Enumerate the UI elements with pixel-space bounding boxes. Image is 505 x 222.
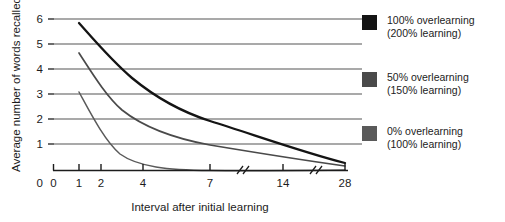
y-tick-label-4: 4 (37, 63, 44, 75)
y-tick-label-3: 3 (37, 88, 43, 100)
y-tick-label-1: 1 (37, 138, 43, 150)
y-tick-label-2: 2 (37, 113, 43, 125)
x-axis-ticks (54, 164, 346, 171)
legend-label-0-percent: 0% overlearning (100% learning) (387, 125, 463, 150)
legend-label-100-percent-line1: 100% overlearning (387, 14, 475, 26)
y-axis-title: Average number of words recalled (10, 0, 22, 172)
legend-label-50-percent-line2: (150% learning) (387, 84, 469, 97)
x-tick-label-28: 28 (339, 177, 352, 189)
gridlines (54, 19, 362, 144)
legend-item-50-percent: 50% overlearning (150% learning) (362, 71, 469, 96)
legend-item-0-percent: 0% overlearning (100% learning) (362, 125, 463, 150)
chart-legend: 100% overlearning (200% learning) 50% ov… (362, 0, 505, 180)
legend-label-100-percent: 100% overlearning (200% learning) (387, 14, 475, 39)
data-curves (79, 23, 345, 171)
x-tick-label-0: 0 (50, 177, 56, 189)
legend-label-0-percent-line2: (100% learning) (387, 138, 463, 151)
y-tick-label-0: 0 (37, 177, 43, 189)
x-axis-title: Interval after initial learning (131, 201, 268, 213)
x-tick-label-7: 7 (207, 177, 213, 189)
legend-item-100-percent: 100% overlearning (200% learning) (362, 14, 475, 39)
curve-50-percent-overlearning (79, 53, 345, 166)
legend-label-50-percent: 50% overlearning (150% learning) (387, 71, 469, 96)
legend-label-50-percent-line1: 50% overlearning (387, 71, 469, 83)
y-tick-label-6: 6 (37, 13, 43, 25)
x-tick-label-4: 4 (140, 177, 147, 189)
legend-label-0-percent-line1: 0% overlearning (387, 125, 463, 137)
y-tick-label-5: 5 (37, 38, 43, 50)
x-tick-label-2: 2 (98, 177, 104, 189)
curve-0-percent-overlearning (79, 92, 345, 171)
y-axis-ticks (48, 19, 54, 144)
x-tick-labels: 0 1 2 4 7 14 28 (50, 177, 351, 189)
legend-label-100-percent-line2: (200% learning) (387, 27, 475, 40)
x-tick-label-1: 1 (76, 177, 82, 189)
y-tick-labels: 6 5 4 3 2 1 0 (37, 13, 44, 189)
forgetting-curve-figure: 6 5 4 3 2 1 0 Average number of words re… (0, 0, 505, 222)
legend-swatch-100-percent (362, 15, 377, 30)
x-tick-label-14: 14 (277, 177, 290, 189)
legend-swatch-0-percent (362, 126, 377, 141)
legend-swatch-50-percent (362, 72, 377, 87)
